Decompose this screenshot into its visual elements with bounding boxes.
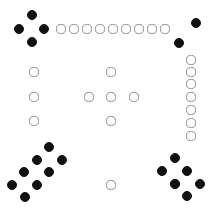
- open-token[interactable]: [160, 24, 169, 33]
- filled-token[interactable]: [182, 166, 192, 176]
- open-token[interactable]: [108, 24, 117, 33]
- open-token[interactable]: [186, 55, 195, 64]
- open-token[interactable]: [106, 180, 115, 189]
- open-token[interactable]: [29, 116, 38, 125]
- filled-token[interactable]: [195, 179, 205, 189]
- filled-token[interactable]: [14, 24, 24, 34]
- filled-token[interactable]: [32, 155, 42, 165]
- filled-token[interactable]: [39, 24, 49, 34]
- filled-token[interactable]: [44, 142, 54, 152]
- filled-token[interactable]: [157, 166, 167, 176]
- filled-token[interactable]: [19, 167, 29, 177]
- filled-token[interactable]: [170, 179, 180, 189]
- open-token[interactable]: [29, 92, 38, 101]
- open-token[interactable]: [186, 67, 195, 76]
- open-token[interactable]: [186, 105, 195, 114]
- open-token[interactable]: [95, 24, 104, 33]
- open-token[interactable]: [106, 92, 115, 101]
- open-token[interactable]: [129, 92, 138, 101]
- filled-token[interactable]: [27, 10, 37, 20]
- open-token[interactable]: [186, 79, 195, 88]
- open-token[interactable]: [147, 24, 156, 33]
- open-token[interactable]: [69, 24, 78, 33]
- token-board: [0, 0, 213, 217]
- open-token[interactable]: [186, 118, 195, 127]
- filled-token[interactable]: [174, 38, 184, 48]
- open-token[interactable]: [121, 24, 130, 33]
- open-token[interactable]: [29, 67, 38, 76]
- open-token[interactable]: [56, 24, 65, 33]
- filled-token[interactable]: [27, 37, 37, 47]
- open-token[interactable]: [84, 92, 93, 101]
- filled-token[interactable]: [191, 18, 201, 28]
- open-token[interactable]: [134, 24, 143, 33]
- filled-token[interactable]: [170, 153, 180, 163]
- filled-token[interactable]: [20, 192, 30, 202]
- filled-token[interactable]: [44, 167, 54, 177]
- filled-token[interactable]: [7, 180, 17, 190]
- open-token[interactable]: [106, 116, 115, 125]
- open-token[interactable]: [82, 24, 91, 33]
- open-token[interactable]: [106, 67, 115, 76]
- filled-token[interactable]: [57, 155, 67, 165]
- open-token[interactable]: [186, 131, 195, 140]
- open-token[interactable]: [186, 92, 195, 101]
- filled-token[interactable]: [182, 191, 192, 201]
- filled-token[interactable]: [32, 180, 42, 190]
